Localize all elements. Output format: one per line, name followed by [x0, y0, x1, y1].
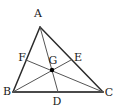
vertex-label-E: E: [74, 52, 82, 63]
geometry-figure: A B C D E F G: [0, 0, 116, 108]
vertex-label-D: D: [53, 96, 62, 107]
side-AB: [13, 27, 40, 92]
vertex-label-A: A: [34, 8, 42, 19]
vertex-label-F: F: [18, 52, 26, 63]
median-BE: [13, 60, 71, 92]
median-CF: [26, 60, 103, 92]
centroid-point: [50, 68, 54, 72]
vertex-label-C: C: [105, 87, 113, 98]
vertex-label-G: G: [49, 55, 58, 66]
vertex-label-B: B: [3, 86, 11, 97]
